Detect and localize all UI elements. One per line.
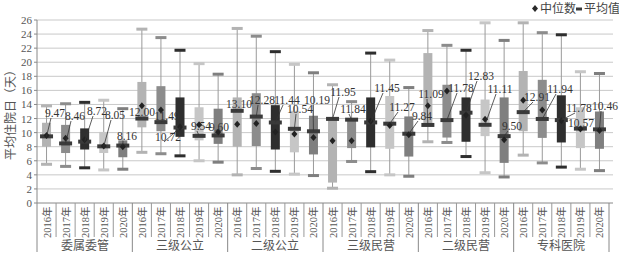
whisker-cap-high bbox=[537, 31, 548, 34]
whisker-cap-low bbox=[384, 173, 395, 176]
x-group-label: 三级公立 bbox=[156, 238, 204, 253]
data-label: 11.95 bbox=[330, 86, 356, 98]
x-group-label: 二级民营 bbox=[442, 239, 490, 253]
x-year-label: 2019年 bbox=[98, 207, 110, 238]
whisker-cap-high bbox=[556, 33, 567, 36]
whisker-cap-low bbox=[289, 173, 300, 176]
x-group-label: 专科医院 bbox=[537, 238, 585, 253]
x-year-label: 2018年 bbox=[460, 207, 472, 238]
whisker-cap-low bbox=[556, 166, 567, 169]
whisker-cap-high bbox=[441, 44, 452, 47]
data-label: 11.78 bbox=[448, 82, 474, 94]
whisker-cap-high bbox=[575, 70, 586, 73]
whisker-cap-high bbox=[365, 52, 376, 55]
whisker-cap-low bbox=[251, 167, 262, 170]
x-year-label: 2019年 bbox=[479, 207, 491, 238]
x-year-label: 2020年 bbox=[498, 207, 510, 238]
whisker-cap-low bbox=[270, 170, 281, 173]
legend-label-mean: 平均值 bbox=[584, 1, 619, 16]
x-year-label: 2019年 bbox=[574, 207, 586, 238]
x-year-label: 2017年 bbox=[441, 207, 453, 238]
x-year-label: 2016年 bbox=[231, 207, 243, 238]
x-year-label: 2020年 bbox=[403, 207, 415, 238]
whisker-cap-low bbox=[98, 168, 109, 171]
whisker-cap-high bbox=[308, 71, 319, 74]
y-tick-label: 8 bbox=[27, 141, 33, 153]
whisker-cap-high bbox=[175, 49, 186, 52]
y-tick-label: 26 bbox=[21, 14, 33, 26]
x-year-label: 2020年 bbox=[593, 207, 605, 238]
x-year-label: 2017年 bbox=[250, 207, 262, 238]
data-label: 10.46 bbox=[592, 100, 618, 112]
whisker-cap-low bbox=[499, 175, 510, 178]
data-label: 11.94 bbox=[547, 83, 573, 95]
x-year-label: 2018年 bbox=[174, 207, 186, 238]
legend-label-median: 中位数 bbox=[540, 1, 576, 16]
x-year-label: 2018年 bbox=[79, 207, 91, 238]
whisker-cap-low bbox=[175, 154, 186, 157]
iqr-box bbox=[328, 119, 337, 183]
whisker-cap-low bbox=[594, 169, 605, 172]
x-year-label: 2016年 bbox=[422, 207, 434, 238]
x-year-label: 2016年 bbox=[136, 207, 148, 238]
y-tick-label: 10 bbox=[21, 127, 33, 139]
whisker-cap-low bbox=[117, 168, 128, 171]
x-year-label: 2017年 bbox=[60, 207, 72, 238]
data-label: 9.60 bbox=[209, 121, 229, 133]
whisker-cap-high bbox=[98, 99, 109, 102]
data-label: 11.84 bbox=[340, 103, 366, 115]
data-label: 11.49 bbox=[154, 110, 180, 122]
y-tick-label: 16 bbox=[21, 84, 33, 96]
data-label: 11.78 bbox=[566, 102, 592, 114]
whisker-cap-high bbox=[461, 49, 472, 52]
box-plot-chart: 024681012141618202224262016年2017年2018年20… bbox=[0, 0, 619, 261]
whisker-cap-low bbox=[403, 175, 414, 178]
whisker-cap-high bbox=[594, 72, 605, 75]
whisker-cap-low bbox=[136, 151, 147, 154]
whisker-cap-high bbox=[79, 101, 90, 104]
whisker-cap-low bbox=[422, 140, 433, 143]
whisker-cap-low bbox=[441, 141, 452, 144]
whisker-cap-high bbox=[289, 63, 300, 66]
x-year-label: 2018年 bbox=[269, 207, 281, 238]
x-group-label: 三级民营 bbox=[347, 239, 395, 253]
whisker-cap-high bbox=[518, 21, 529, 24]
whisker-cap-high bbox=[422, 29, 433, 32]
data-label: 11.11 bbox=[487, 83, 512, 95]
y-tick-label: 12 bbox=[21, 113, 32, 125]
data-label: 9.84 bbox=[412, 110, 432, 122]
leader-line bbox=[333, 97, 339, 119]
whisker-cap-high bbox=[403, 86, 414, 89]
y-tick-label: 6 bbox=[27, 155, 33, 167]
data-label: 8.46 bbox=[65, 110, 85, 122]
whisker-cap-low bbox=[79, 166, 90, 169]
y-tick-label: 22 bbox=[21, 42, 32, 54]
y-tick-label: 20 bbox=[21, 56, 33, 68]
data-label: 12.00 bbox=[129, 106, 155, 118]
data-label: 8.16 bbox=[117, 130, 137, 142]
whisker-cap-high bbox=[251, 35, 262, 38]
whisker-cap-high bbox=[270, 50, 281, 53]
legend-diamond-icon bbox=[532, 5, 538, 12]
iqr-box bbox=[271, 105, 280, 149]
legend-bar-icon bbox=[576, 8, 582, 11]
y-tick-label: 0 bbox=[27, 197, 33, 209]
x-year-label: 2019年 bbox=[384, 207, 396, 238]
data-label: 12.91 bbox=[524, 91, 550, 103]
data-label: 11.45 bbox=[374, 82, 400, 94]
x-year-label: 2017年 bbox=[346, 207, 358, 238]
legend: 中位数 平均值 bbox=[532, 1, 619, 16]
y-tick-label: 18 bbox=[21, 70, 33, 82]
x-year-label: 2016年 bbox=[327, 207, 339, 238]
whisker-cap-high bbox=[213, 73, 224, 76]
y-tick-label: 24 bbox=[21, 28, 33, 40]
data-label: 10.57 bbox=[568, 117, 594, 129]
x-year-label: 2020年 bbox=[212, 207, 224, 238]
x-year-label: 2020年 bbox=[307, 207, 319, 238]
data-label: 10.72 bbox=[155, 131, 181, 143]
whisker-cap-low bbox=[480, 171, 491, 174]
data-label: 11.09 bbox=[418, 88, 444, 100]
whisker-cap-high bbox=[136, 28, 147, 31]
x-year-label: 2020年 bbox=[117, 207, 129, 238]
whisker-cap-low bbox=[213, 161, 224, 164]
